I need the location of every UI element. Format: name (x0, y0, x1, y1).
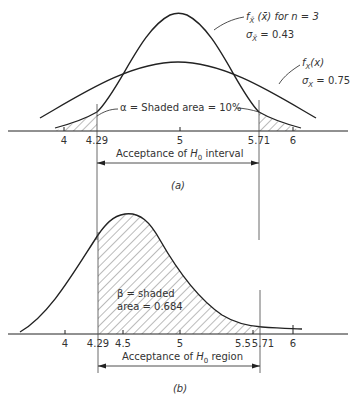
tick-b-4: 4 (62, 339, 68, 349)
sigma-xbar-value: = 0.43 (260, 29, 294, 40)
sample-mean-density-curve (97, 14, 259, 113)
h-symbol: H (190, 148, 198, 159)
tick-b-4-5: 4.5 (115, 339, 131, 349)
acceptance-text-b: Acceptance of (122, 351, 196, 362)
region-text: region (208, 351, 243, 362)
acceptance-region-label: Acceptance of H0 region (122, 352, 243, 365)
beta-label-line2: area = 0.684 (117, 302, 183, 312)
tick-b-6: 6 (290, 339, 296, 349)
tick-b-4-29: 4.29 (87, 339, 109, 349)
tick-a-4: 4 (61, 136, 67, 146)
tick-a-6: 6 (290, 136, 296, 146)
tick-a-4-29: 4.29 (86, 136, 108, 146)
alpha-label: α = Shaded area = 10% (120, 103, 241, 113)
tick-b-5-71: 5.71 (252, 339, 274, 349)
population-curve-label: fX(x) (302, 58, 324, 71)
beta-label-line1: β = shaded (117, 289, 175, 299)
sigma-x-label: σX = 0.75 (302, 76, 350, 89)
tick-b-5: 5 (177, 339, 183, 349)
sigma-x-value: = 0.75 (316, 75, 350, 86)
caption-a: (a) (171, 180, 185, 191)
caption-b: (b) (173, 383, 187, 394)
tick-a-5: 5 (177, 136, 183, 146)
tick-a-5-71: 5.71 (248, 136, 270, 146)
h-symbol-b: H (196, 351, 204, 362)
for-n3-text: (x̄) for n = 3 (258, 11, 319, 22)
sample-mean-curve-label: fX̄ (x̄) for n = 3 (246, 12, 319, 25)
sigma-xbar-label: σX̄ = 0.43 (246, 30, 294, 43)
acceptance-interval-label: Acceptance of H0 interval (116, 149, 244, 162)
interval-text: interval (202, 148, 243, 159)
acceptance-text: Acceptance of (116, 148, 190, 159)
panel-b (8, 214, 348, 373)
fx-arg: (x) (310, 57, 324, 68)
panel-a (8, 14, 348, 241)
beta-shaded-region (98, 214, 260, 334)
tick-b-5-5: 5.5 (235, 339, 251, 349)
